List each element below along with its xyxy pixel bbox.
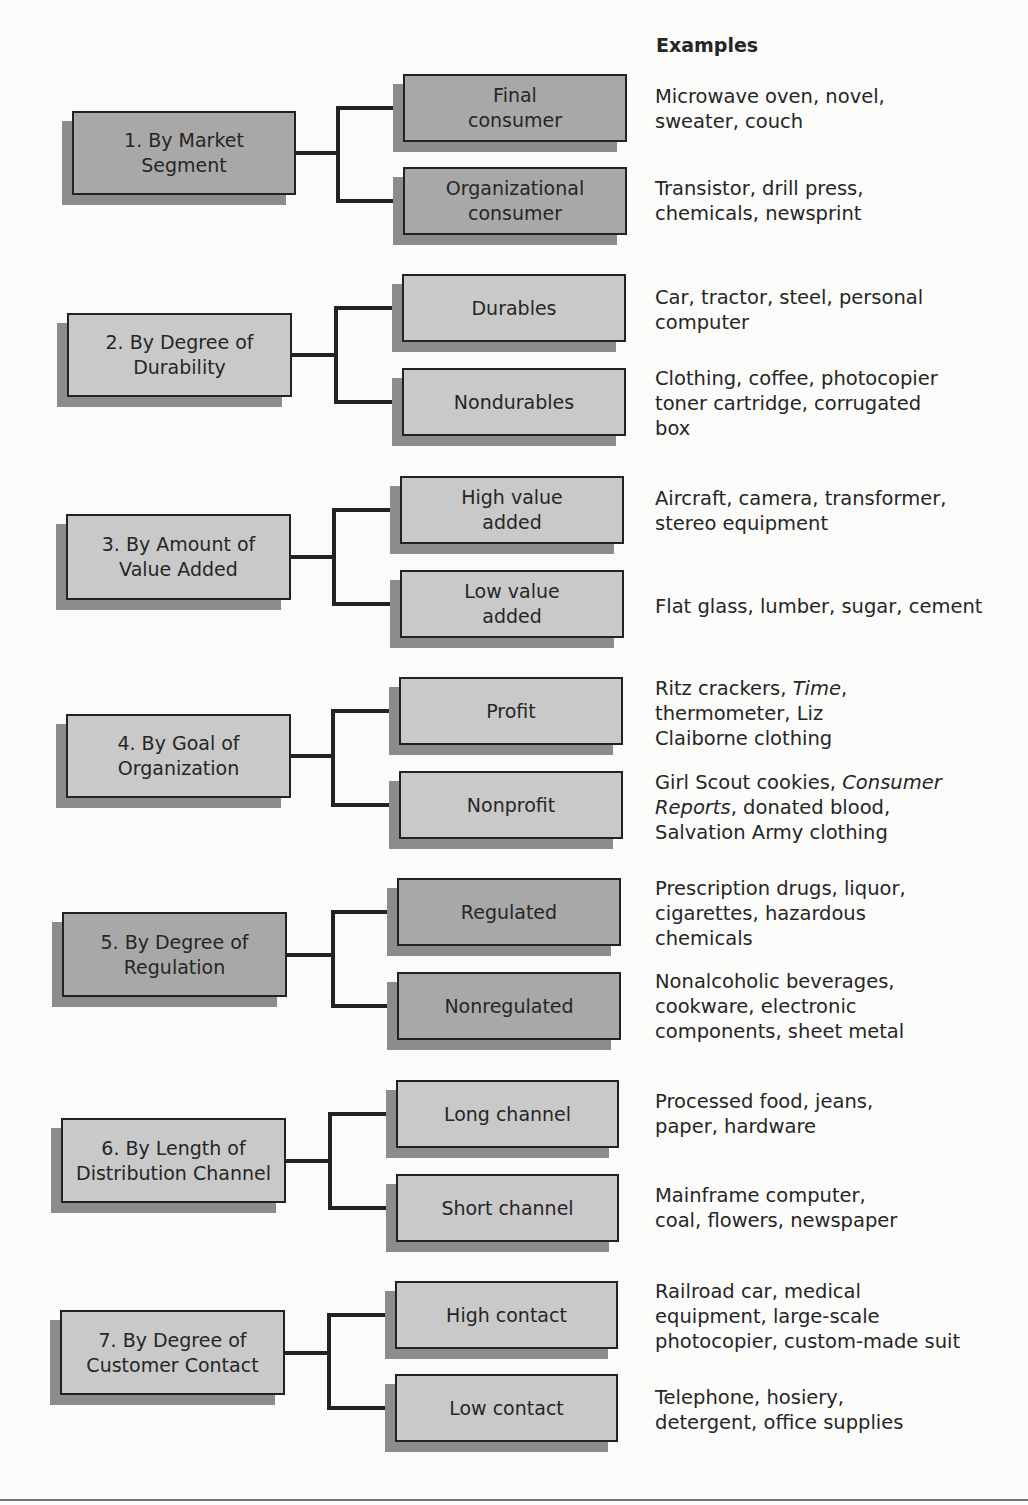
category-box: 6. By Length of Distribution Channel [61,1118,286,1203]
connector-line [285,1351,329,1355]
subcategory-box: Long channel [396,1080,619,1148]
category-box: 4. By Goal of Organization [66,714,291,798]
example-text: Flat glass, lumber, sugar, cement [655,594,982,619]
connector-line [331,910,335,1008]
connector-line [286,1159,330,1163]
examples-header: Examples [656,34,758,56]
example-text: Car, tractor, steel, personal computer [655,285,923,335]
connector-line [331,709,335,807]
example-text: Telephone, hosiery, detergent, office su… [655,1385,903,1435]
subcategory-box: Regulated [397,878,621,946]
connector-line [287,953,333,957]
subcategory-box: Nonprofit [399,771,623,839]
connector-line [336,106,340,203]
connector-line [291,754,333,758]
example-text: Railroad car, medical equipment, large-s… [655,1279,960,1354]
example-text: Ritz crackers, Time, thermometer, Liz Cl… [655,676,847,751]
subcategory-box: Nonregulated [397,972,621,1040]
example-text: Clothing, coffee, photocopier toner cart… [655,366,938,441]
category-box: 1. By Market Segment [72,111,296,195]
connector-line [292,353,336,357]
example-text: Mainframe computer, coal, flowers, newsp… [655,1183,897,1233]
example-fragment: Girl Scout cookies, [655,771,842,794]
example-text: Microwave oven, novel, sweater, couch [655,84,885,134]
connector-line [291,555,334,559]
subcategory-box: Organizational consumer [403,167,627,235]
connector-line [328,1112,332,1210]
subcategory-box: Low contact [395,1374,618,1442]
subcategory-box: Low value added [400,570,624,638]
connector-line [296,151,338,155]
subcategory-box: Nondurables [402,368,626,436]
subcategory-box: High value added [400,476,624,544]
example-text: Nonalcoholic beverages, cookware, electr… [655,969,904,1044]
example-text: Prescription drugs, liquor, cigarettes, … [655,876,906,951]
subcategory-box: High contact [395,1281,618,1349]
example-text: Girl Scout cookies, Consumer Reports, do… [655,770,942,845]
example-text: Aircraft, camera, transformer, stereo eq… [655,486,946,536]
subcategory-box: Durables [402,274,626,342]
connector-line [334,306,338,404]
example-text: Transistor, drill press, chemicals, news… [655,176,863,226]
category-box: 5. By Degree of Regulation [62,912,287,997]
connector-line [332,508,336,606]
bottom-rule [0,1499,1028,1501]
subcategory-box: Final consumer [403,74,627,142]
category-box: 7. By Degree of Customer Contact [60,1310,285,1395]
subcategory-box: Profit [399,677,623,745]
example-title-italic: Time [793,677,841,700]
category-box: 3. By Amount of Value Added [66,514,291,600]
connector-line [327,1313,331,1410]
example-text: Processed food, jeans, paper, hardware [655,1089,873,1139]
example-fragment: Ritz crackers, [655,677,793,700]
subcategory-box: Short channel [396,1174,619,1242]
category-box: 2. By Degree of Durability [67,313,292,397]
